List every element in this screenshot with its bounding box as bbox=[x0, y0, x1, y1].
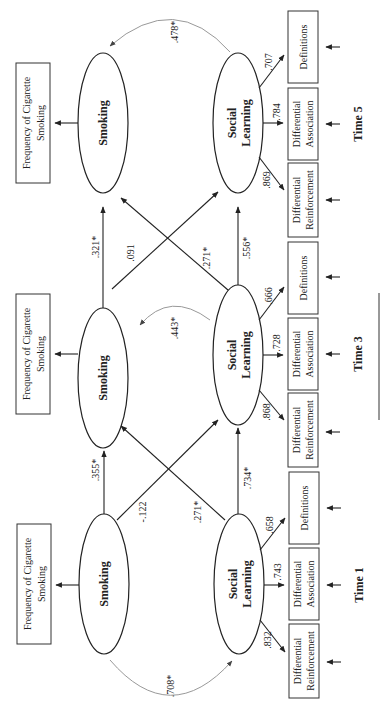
svg-text:Reinforcement: Reinforcement bbox=[305, 631, 316, 691]
smoking-label-t5: Smoking bbox=[96, 100, 110, 145]
svg-text:Differential: Differential bbox=[292, 561, 303, 608]
loading-label-t3-association: .728 bbox=[271, 334, 282, 352]
freq-label-t5-line1: Frequency of Cigarette bbox=[21, 76, 32, 169]
time-label-t5: Time 5 bbox=[351, 106, 365, 141]
indicator-box-t1-definitions: Definitions bbox=[289, 472, 319, 544]
coef-sl-sl-t1-t3: .734* bbox=[242, 467, 253, 490]
freq-label-t5-line2: Smoking bbox=[35, 105, 46, 141]
coef-sl-sl-t3-t5: .556* bbox=[241, 237, 252, 260]
correlation-label-t1: .708* bbox=[165, 675, 176, 698]
svg-text:Learning: Learning bbox=[239, 331, 253, 378]
svg-text:Association: Association bbox=[304, 100, 315, 147]
path-smoking-t3-to-sl-t5 bbox=[112, 192, 218, 289]
time-label-t3: Time 3 bbox=[351, 336, 365, 371]
svg-text:Frequency of Cigarette: Frequency of Cigarette bbox=[21, 307, 32, 400]
time3-group: Frequency of Cigarette Smoking Smoking S… bbox=[16, 242, 379, 467]
correlation-label-t3: .443* bbox=[169, 317, 180, 340]
time-label-t1: Time 1 bbox=[352, 567, 366, 602]
coef-smoking-sl-t1-t3: -.122 bbox=[137, 502, 148, 523]
svg-text:Definitions: Definitions bbox=[298, 24, 309, 69]
coef-smoking-smoking-t1-t3: .355* bbox=[90, 459, 101, 482]
smoking-label-t1: Smoking bbox=[97, 561, 111, 606]
svg-text:Differential: Differential bbox=[292, 638, 303, 685]
loading-label-t5-reinforcement: .869 bbox=[261, 171, 272, 189]
coef-sl-smoking-t1-t3: .271* bbox=[192, 501, 203, 524]
svg-text:Differential: Differential bbox=[291, 331, 302, 378]
loading-label-t3-definitions: .666 bbox=[263, 287, 274, 305]
freq-box-t5: Frequency of Cigarette Smoking bbox=[16, 63, 50, 183]
loading-label-t1-reinforcement: .832 bbox=[262, 631, 273, 649]
indicator-box-t5-definitions: Definitions bbox=[288, 11, 318, 83]
svg-text:Differential: Differential bbox=[291, 101, 302, 148]
indicator-box-t5-reinforcement: Differential Reinforcement bbox=[288, 163, 318, 237]
indicator-box-t3-definitions: Definitions bbox=[288, 242, 318, 314]
svg-text:Reinforcement: Reinforcement bbox=[304, 400, 315, 460]
indicator-box-t1-reinforcement: Differential Reinforcement bbox=[289, 624, 319, 698]
social-learning-label-t5-line2: Learning bbox=[239, 99, 253, 146]
smoking-label-t3: Smoking bbox=[96, 355, 110, 400]
path-diagram: Frequency of Cigarette Smoking Smoking S… bbox=[0, 0, 390, 726]
svg-text:Smoking: Smoking bbox=[35, 336, 46, 372]
coef-smoking-sl-t3-t5: .091 bbox=[125, 244, 136, 262]
coef-sl-smoking-t3-t5: .271* bbox=[201, 247, 212, 270]
svg-text:Definitions: Definitions bbox=[298, 255, 309, 300]
freq-box-t1: Frequency of Cigarette Smoking bbox=[17, 524, 51, 644]
correlation-label-t5: .478* bbox=[169, 21, 180, 44]
indicator-box-t3-reinforcement: Differential Reinforcement bbox=[288, 393, 318, 467]
loading-label-t1-definitions: .658 bbox=[264, 516, 275, 534]
svg-text:Definitions: Definitions bbox=[299, 485, 310, 530]
svg-text:Association: Association bbox=[305, 560, 316, 607]
svg-text:Frequency of Cigarette: Frequency of Cigarette bbox=[22, 537, 33, 630]
coef-smoking-smoking-t3-t5: .321* bbox=[90, 236, 101, 259]
loading-label-t3-reinforcement: .868 bbox=[261, 403, 272, 421]
freq-box-t3: Frequency of Cigarette Smoking bbox=[16, 294, 50, 414]
svg-text:Learning: Learning bbox=[240, 560, 254, 607]
loading-label-t5-definitions: .707 bbox=[263, 53, 274, 71]
svg-text:Association: Association bbox=[304, 330, 315, 377]
svg-text:Social: Social bbox=[225, 339, 239, 370]
loading-label-t5-association: .784 bbox=[271, 103, 282, 121]
svg-text:Social: Social bbox=[226, 568, 240, 599]
svg-text:Reinforcement: Reinforcement bbox=[304, 170, 315, 230]
indicator-box-t1-association: Differential Association bbox=[289, 548, 319, 620]
indicator-box-t3-association: Differential Association bbox=[288, 318, 318, 390]
svg-text:Smoking: Smoking bbox=[36, 566, 47, 602]
social-learning-label-t5-line1: Social bbox=[225, 107, 239, 138]
indicator-box-t5-association: Differential Association bbox=[288, 88, 318, 160]
svg-text:Differential: Differential bbox=[291, 407, 302, 454]
path-sl-t3-to-smoking-t5 bbox=[121, 198, 228, 290]
svg-text:Differential: Differential bbox=[291, 177, 302, 224]
time5-group: Frequency of Cigarette Smoking Smoking S… bbox=[16, 11, 365, 237]
loading-label-t1-association: .743 bbox=[272, 563, 283, 581]
